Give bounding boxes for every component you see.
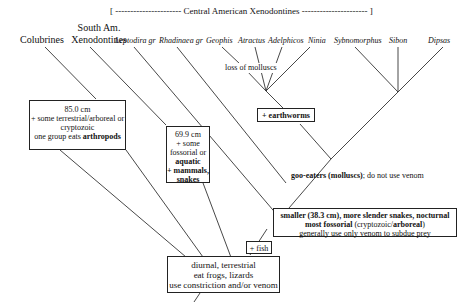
south-am-mammals: + mammals, [167, 166, 209, 175]
taxon-sybnomorphus: Sybnomorphus [334, 36, 382, 46]
taxon-atractus: Atractus [238, 36, 265, 46]
central-am-arboreal: arboreal [393, 220, 422, 229]
taxon-rhadinaea: Rhadinaea gr [159, 36, 203, 46]
colubrines-size: 85.0 cm [30, 105, 125, 114]
earthworms-box: + earthworms [257, 108, 315, 122]
fish-box: + fish [246, 241, 272, 254]
south-am-aquatic: aquatic [167, 157, 209, 166]
taxon-ninia: Ninia [308, 36, 326, 46]
south-am-trait-box: 69.9 cm + some fossorial or aquatic + ma… [166, 126, 210, 183]
colubrines-trait-box: 85.0 cm + some terrestrial/arboreal or c… [29, 100, 126, 150]
colubrines-diet-arthropods: arthropods [83, 132, 121, 141]
south-am-size: 69.9 cm [167, 130, 209, 139]
loss-of-molluscs-annotation: loss of molluscs [224, 63, 278, 73]
taxon-colubrines: Colubrines [20, 35, 64, 45]
colubrines-habitat-cont: cryptozoic [30, 123, 125, 132]
central-am-paren-close: ) [422, 220, 425, 229]
taxon-geophis: Geophis [206, 36, 233, 46]
central-am-venom: generally use only venom to subdue prey [274, 229, 456, 238]
central-am-cryptozoic: (cryptozoic/ [352, 220, 393, 229]
central-am-habitat: most fossorial (cryptozoic/arboreal) [274, 220, 456, 229]
colubrines-habitat: + some terrestrial/arboreal or [30, 114, 125, 123]
taxon-dipsas: Dipsas [428, 36, 450, 46]
colubrines-diet-prefix: one group eats [34, 132, 83, 141]
south-am-some: + some [167, 139, 209, 148]
taxon-sibon: Sibon [389, 36, 407, 46]
central-am-size: smaller (38.3 cm), more slender snakes, … [274, 211, 456, 220]
taxon-south-am-line1: South Am. [64, 23, 134, 33]
central-american-xenodontines-bracket: [ ---------------------- Central America… [110, 6, 373, 16]
goo-eaters-rest: ; do not use venom [363, 171, 424, 180]
central-american-trait-box: smaller (38.3 cm), more slender snakes, … [273, 208, 457, 237]
taxon-leptodira: Leptodira gr [115, 36, 156, 46]
root-diet: eat frogs, lizards [168, 270, 279, 280]
central-am-fossorial: most fossorial [305, 220, 352, 229]
goo-eaters-molluscs: (molluscs) [326, 171, 363, 180]
taxon-adelphicos: Adelphicos [268, 36, 304, 46]
south-am-snakes: snakes [167, 175, 209, 184]
goo-eaters-bold: goo-eaters [291, 171, 326, 180]
root-habits: diurnal, terrestrial [168, 260, 279, 270]
colubrines-diet: one group eats arthropods [30, 132, 125, 141]
south-am-fossorial: fossorial or [167, 148, 209, 157]
root-method: use constriction and/or venom [168, 280, 279, 290]
goo-eaters-annotation: goo-eaters (molluscs); do not use venom [291, 171, 424, 181]
root-trait-box: diurnal, terrestrial eat frogs, lizards … [167, 256, 280, 293]
